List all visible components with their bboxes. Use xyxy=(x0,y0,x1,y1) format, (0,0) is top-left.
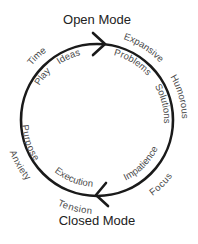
label-solutions: Solutions xyxy=(153,82,173,124)
label-impatience: Impatience xyxy=(121,144,159,182)
mode-cycle-diagram: Open Mode Time Play Ideas Expansive Humo… xyxy=(0,0,198,244)
closed-mode-title: Closed Mode xyxy=(59,213,136,228)
diagram-canvas: Open Mode Time Play Ideas Expansive Humo… xyxy=(0,0,198,244)
open-mode-title: Open Mode xyxy=(63,12,131,27)
